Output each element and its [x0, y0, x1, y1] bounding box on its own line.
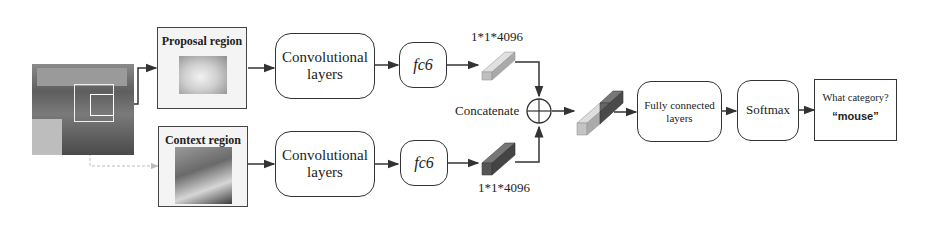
output-answer: “mouse”	[815, 110, 896, 122]
softmax-label: Softmax	[746, 103, 790, 118]
feature-top-dims: 1*1*4096	[471, 29, 523, 45]
proposal-region-box: Proposal region	[157, 27, 247, 109]
conv-layers-top: Convolutional layers	[275, 33, 375, 99]
fc-line2: layers	[666, 112, 692, 125]
concatenate-label: Concatenate	[455, 103, 519, 119]
context-region-image	[175, 147, 232, 204]
conv-bottom-line2: layers	[307, 164, 343, 181]
feature-bottom-dims: 1*1*4096	[478, 180, 530, 196]
fc6-bottom-label: fc6	[414, 154, 434, 172]
scene-desk-panel	[32, 119, 62, 155]
fully-connected-layers: Fully connected layers	[637, 81, 722, 142]
feature-vector-bottom	[482, 143, 515, 175]
conv-bottom-line1: Convolutional	[282, 147, 368, 164]
proposal-bounding-box	[90, 94, 114, 116]
output-box: What category? “mouse”	[814, 79, 897, 141]
combined-feature-vector	[577, 91, 623, 135]
input-scene-image	[32, 64, 134, 155]
softmax-box: Softmax	[737, 80, 799, 141]
fc-line1: Fully connected	[644, 99, 715, 112]
conv-top-line2: layers	[307, 66, 343, 83]
fc6-top: fc6	[399, 42, 447, 88]
context-region-box: Context region	[158, 126, 248, 207]
proposal-region-title: Proposal region	[158, 34, 246, 49]
fc6-top-label: fc6	[413, 56, 433, 74]
proposal-region-image	[179, 56, 227, 94]
feature-vector-top	[482, 52, 515, 80]
output-question: What category?	[815, 92, 896, 103]
conv-top-line1: Convolutional	[282, 49, 368, 66]
fc6-bottom: fc6	[400, 140, 448, 186]
context-region-title: Context region	[159, 133, 247, 148]
conv-layers-bottom: Convolutional layers	[275, 131, 375, 197]
